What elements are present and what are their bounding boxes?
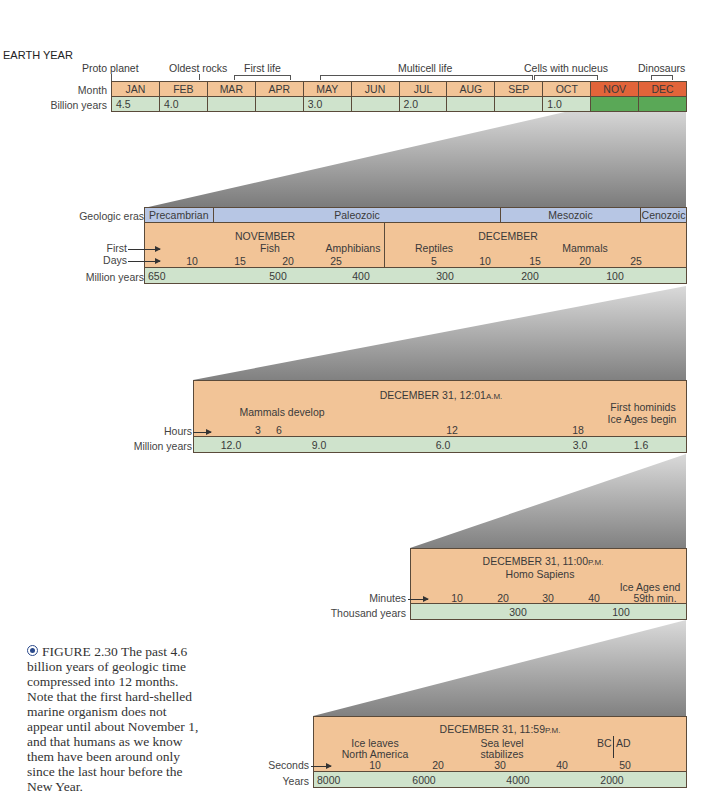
month-apr: APR: [255, 82, 303, 96]
thousand-years-row: [410, 603, 687, 620]
my-value: 12.0: [221, 439, 241, 451]
row-label-month: Month: [78, 84, 107, 96]
era-precambrian: Precambrian: [145, 208, 213, 222]
event-mammals-develop: Mammals develop: [239, 406, 324, 418]
bc-ad-divider: [613, 736, 614, 758]
day-tick: 10: [479, 255, 491, 267]
first-arrow-icon: [128, 249, 160, 250]
month-oct: OCT: [542, 82, 590, 96]
caption-text: The past 4.6 billion years of geologic t…: [27, 644, 198, 794]
era-mesozoic: Mesozoic: [500, 208, 640, 222]
by-cell: 3.0: [303, 97, 351, 111]
my-value: 300: [436, 270, 454, 282]
row-label-seconds: Seconds: [268, 759, 309, 771]
hour-tick: 3: [255, 424, 261, 436]
ty-value: 300: [509, 606, 527, 618]
day-tick: 5: [431, 255, 437, 267]
row-label-million-years: Million years: [134, 440, 192, 452]
by-cell: [255, 97, 303, 111]
day-tick: 25: [630, 255, 642, 267]
by-cell-nov: [590, 97, 638, 111]
label-november: NOVEMBER: [235, 230, 295, 242]
by-cell-dec: [638, 97, 686, 111]
hours-panel-title: DECEMBER 31, 12:01A.M.: [380, 389, 503, 401]
first-amphibians: Amphibians: [326, 242, 381, 254]
second-tick: 20: [432, 759, 444, 771]
day-tick: 10: [186, 255, 198, 267]
event-bracket: [651, 75, 673, 80]
month-mar: MAR: [207, 82, 255, 96]
year-value: 4000: [506, 774, 529, 786]
day-tick: 25: [330, 255, 342, 267]
month-aug: AUG: [446, 82, 494, 96]
row-label-first: First: [107, 242, 127, 254]
row-label-minutes: Minutes: [369, 592, 406, 604]
hours-arrow-icon: [193, 432, 211, 433]
event-first-life: First life: [244, 62, 281, 74]
event-multicell-life: Multicell life: [398, 62, 452, 74]
row-label-years: Years: [283, 775, 309, 787]
day-tick: 20: [579, 255, 591, 267]
my-value: 6.0: [436, 439, 451, 451]
month-sep: SEP: [494, 82, 542, 96]
event-first-hominids: First hominids: [610, 401, 675, 413]
hour-tick: 12: [446, 424, 458, 436]
my-value: 100: [606, 270, 624, 282]
days-arrow-icon: [128, 261, 160, 262]
my-value: 500: [269, 270, 287, 282]
second-tick: 40: [556, 759, 568, 771]
my-value: 3.0: [573, 439, 588, 451]
my-value: 400: [352, 270, 370, 282]
label-ad: AD: [616, 737, 631, 749]
ty-value: 100: [612, 606, 630, 618]
row-label-million-years: Million years: [86, 271, 144, 283]
figure-bullet-icon: [27, 645, 38, 656]
eras-row: Precambrian Paleozoic Mesozoic Cenozoic: [144, 207, 687, 223]
year-value: 8000: [317, 774, 340, 786]
billion-years-row: 4.5 4.0 3.0 2.0 1.0: [111, 96, 687, 112]
second-tick: 30: [494, 759, 506, 771]
row-label-billion-years: Billion years: [50, 99, 107, 111]
figure-number: FIGURE 2.30: [42, 644, 118, 659]
by-cell: 4.0: [159, 97, 207, 111]
month-row: JAN FEB MAR APR MAY JUN JUL AUG SEP OCT …: [111, 81, 687, 97]
month-jun: JUN: [351, 82, 399, 96]
seconds-panel-title: DECEMBER 31, 11:59P.M.: [440, 723, 561, 735]
day-tick: 20: [282, 255, 294, 267]
by-cell: [446, 97, 494, 111]
label-bc: BC: [597, 737, 612, 749]
event-bracket: [320, 75, 533, 80]
by-cell: 2.0: [399, 97, 447, 111]
seconds-arrow-icon: [311, 766, 331, 767]
second-tick: 10: [369, 759, 381, 771]
day-tick: 15: [234, 255, 246, 267]
event-homo-sapiens: Homo Sapiens: [506, 568, 575, 580]
event-cells-nucleus: Cells with nucleus: [524, 62, 608, 74]
minutes-arrow-icon: [408, 599, 428, 600]
figure-caption: FIGURE 2.30 The past 4.6 billion years o…: [27, 644, 202, 794]
month-may: MAY: [303, 82, 351, 96]
hour-tick: 6: [276, 424, 282, 436]
month-dec: DEC: [638, 82, 686, 96]
first-reptiles: Reptiles: [415, 242, 453, 254]
event-bracket: [234, 75, 291, 80]
event-oldest-rocks: Oldest rocks: [169, 62, 227, 74]
era-cenozoic: Cenozoic: [640, 208, 686, 222]
minutes-panel-title: DECEMBER 31, 11:00P.M.: [483, 555, 604, 567]
event-marker: [199, 74, 200, 80]
label-december: DECEMBER: [478, 230, 538, 242]
row-label-hours: Hours: [164, 425, 192, 437]
by-cell: [207, 97, 255, 111]
day-tick: 15: [529, 255, 541, 267]
month-divider: [384, 223, 385, 268]
second-tick: 50: [619, 759, 631, 771]
month-jan: JAN: [112, 82, 159, 96]
my-value: 200: [521, 270, 539, 282]
row-label-thousand-years: Thousand years: [331, 607, 406, 619]
my-value: 9.0: [312, 439, 327, 451]
my-value: 650: [148, 270, 166, 282]
month-nov: NOV: [590, 82, 638, 96]
row-label-eras: Geologic eras: [79, 210, 144, 222]
my-value: 1.6: [634, 439, 649, 451]
event-bracket: [534, 75, 598, 80]
